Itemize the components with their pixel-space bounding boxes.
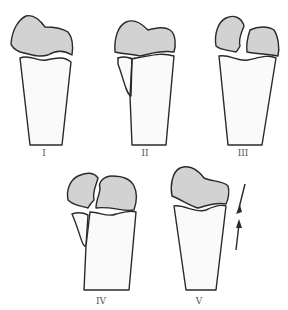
compression-arrows [236,184,245,250]
panel-type-1 [11,16,73,145]
panel-label-1: I [42,148,46,158]
panel-type-4 [67,173,136,290]
panel-label-2: II [141,148,148,158]
salter-harris-diagram: I II III IV V [0,0,288,310]
panel-label-5: V [196,296,203,306]
panel-type-5 [171,167,245,290]
panel-label-3: III [238,148,249,158]
panel-type-3 [215,16,278,145]
panel-label-4: IV [96,296,106,306]
panel-type-2 [115,21,175,145]
